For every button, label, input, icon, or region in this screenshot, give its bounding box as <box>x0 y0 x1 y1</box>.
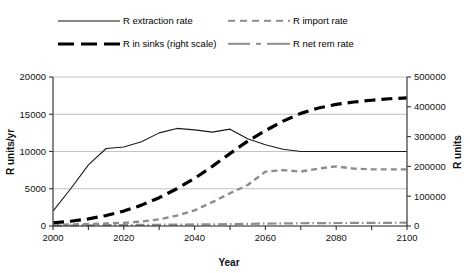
chart-canvas: 0500010000150002000001000002000003000004… <box>0 0 470 273</box>
series-line-2 <box>53 98 407 223</box>
data-series-layer <box>53 98 407 226</box>
y2-tick-label: 200000 <box>414 161 446 172</box>
chart-plot-area: 0500010000150002000001000002000003000004… <box>0 0 470 273</box>
y-tick-label: 20000 <box>20 71 46 82</box>
x-tick-label: 2020 <box>113 232 134 243</box>
y2-tick-label: 100000 <box>414 191 446 202</box>
y-tick-label: 5000 <box>25 183 46 194</box>
x-tick-label: 2000 <box>42 232 63 243</box>
y2-tick-label: 300000 <box>414 131 446 142</box>
x-tick-label: 2040 <box>184 232 205 243</box>
y-tick-label: 15000 <box>20 109 46 120</box>
tick-labels-layer: 0500010000150002000001000002000003000004… <box>20 71 446 243</box>
y2-tick-label: 400000 <box>414 101 446 112</box>
y2-tick-label: 0 <box>414 220 419 231</box>
chart-figure: R extraction rate R in sinks (right scal… <box>0 0 470 273</box>
x-tick-label: 2080 <box>326 232 347 243</box>
gridlines <box>53 77 407 189</box>
y-tick-label: 0 <box>41 220 46 231</box>
y-tick-label: 10000 <box>20 146 46 157</box>
x-tick-label: 2060 <box>255 232 276 243</box>
x-tick-label: 2100 <box>396 232 417 243</box>
y2-tick-label: 500000 <box>414 71 446 82</box>
